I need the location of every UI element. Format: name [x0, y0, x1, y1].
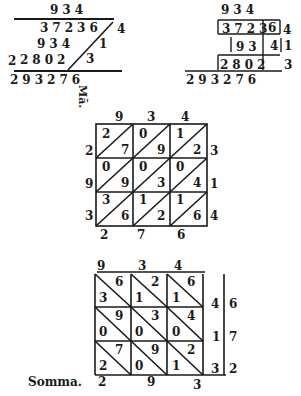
fig4-grid-lines [0, 0, 301, 396]
